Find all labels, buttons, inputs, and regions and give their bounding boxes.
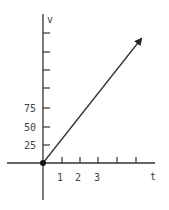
- x-tick-label-1: 1: [57, 172, 63, 183]
- velocity-arrow: [43, 39, 141, 163]
- x-axis-label: t: [150, 171, 156, 182]
- y-axis-label: v: [47, 14, 53, 25]
- y-tick-label-75: 75: [24, 103, 36, 114]
- x-ticks: [62, 157, 136, 163]
- y-tick-label-25: 25: [24, 140, 36, 151]
- x-tick-label-2: 2: [75, 172, 81, 183]
- velocity-time-diagram: 25 50 75 1 2 3 v t: [0, 0, 169, 210]
- y-ticks: [43, 33, 50, 145]
- origin-dot: [40, 160, 46, 166]
- y-tick-label-50: 50: [24, 122, 36, 133]
- x-tick-label-3: 3: [94, 172, 100, 183]
